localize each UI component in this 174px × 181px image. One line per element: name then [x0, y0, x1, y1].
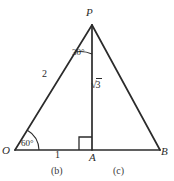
- caption-b: (b): [51, 166, 63, 176]
- vertex-label-p: P: [86, 7, 93, 18]
- vertex-label-o: O: [2, 145, 10, 156]
- angle-label-30: 30°: [72, 48, 85, 57]
- right-angle-marker-icon: [79, 137, 92, 150]
- geometry-canvas: [0, 0, 174, 181]
- vertex-label-a: A: [89, 152, 96, 163]
- altitude-length-label-sqrt3: √3: [91, 80, 102, 90]
- side-length-label-op: 2: [42, 69, 47, 79]
- side-pb-line: [92, 25, 160, 150]
- side-length-label-oa: 1: [55, 150, 60, 160]
- vertex-label-b: B: [161, 146, 168, 157]
- angle-label-60: 60°: [21, 139, 34, 148]
- geometry-figure: P O A B 30° 60° 2 1 √3 (b) (c): [0, 0, 174, 181]
- side-op-line: [15, 25, 92, 150]
- radicand-value: 3: [96, 78, 102, 90]
- caption-c: (c): [113, 166, 124, 176]
